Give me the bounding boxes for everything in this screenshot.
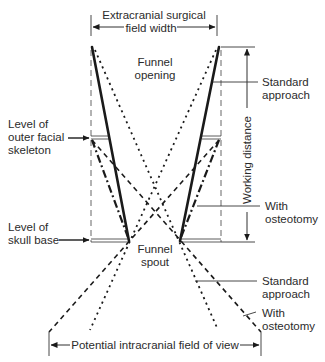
standard-approach-bottom-label-line2: approach: [262, 288, 310, 300]
with-osteotomy-top-callout: With osteotomy: [197, 200, 318, 225]
funnel-diagram: Extracranial surgical field width: [0, 0, 325, 362]
outer-facial-label-line2: outer facial: [8, 131, 64, 143]
standard-approach-top-label-line1: Standard: [262, 76, 309, 88]
standard-approach-bottom-callout: Standard approach: [195, 275, 310, 300]
with-osteotomy-bottom-label-line1: With: [262, 307, 285, 319]
working-distance-dimension: Working distance: [221, 47, 255, 242]
standard-approach-top-callout: Standard approach: [213, 76, 310, 101]
outer-facial-skeleton-callout: Level of outer facial skeleton: [8, 118, 89, 156]
extracranial-label-line1: Extracranial surgical: [102, 9, 206, 21]
standard-approach-bottom-label-line1: Standard: [262, 275, 309, 287]
intracranial-field-label: Potential intracranial field of view: [71, 339, 239, 351]
with-osteotomy-bottom-callout: With osteotomy: [243, 307, 315, 332]
extracranial-label-line2: field width: [125, 22, 176, 34]
osteotomy-walls: [92, 140, 219, 240]
standard-approach-top-label-line2: approach: [262, 89, 310, 101]
skull-base-label-line2: skull base: [8, 234, 59, 246]
outer-facial-label-line3: skeleton: [8, 144, 51, 156]
funnel-opening-label-line1: Funnel: [137, 56, 172, 68]
with-osteotomy-top-label-line2: osteotomy: [265, 213, 318, 225]
with-osteotomy-top-label-line1: With: [265, 200, 288, 212]
skull-base-level: [91, 239, 221, 242]
with-osteotomy-bottom-label-line2: osteotomy: [262, 320, 315, 332]
skull-base-callout: Level of skull base: [8, 221, 89, 246]
funnel-spout-label-line1: Funnel: [137, 243, 172, 255]
skull-base-label-line1: Level of: [8, 221, 49, 233]
intracranial-field-dimension: Potential intracranial field of view: [49, 332, 261, 356]
osteotomy-sightlines: [49, 140, 261, 332]
working-distance-label: Working distance: [241, 116, 253, 204]
funnel-spout-label-line2: spout: [141, 256, 170, 268]
outer-facial-label-line1: Level of: [8, 118, 49, 130]
funnel-opening-label-line2: opening: [135, 69, 176, 81]
extracranial-width-dimension: Extracranial surgical field width: [91, 9, 217, 36]
